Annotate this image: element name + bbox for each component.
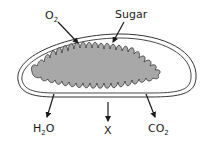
label-x: X	[104, 124, 112, 137]
o2-arrow	[58, 22, 78, 43]
h2o-arrow	[47, 94, 54, 117]
label-h2o: H2O	[33, 122, 55, 137]
label-sugar: Sugar	[115, 8, 148, 21]
mitochondrion-diagram: O2 Sugar H2O X CO2	[0, 0, 208, 147]
cristae-matrix	[31, 42, 160, 88]
label-co2: CO2	[148, 122, 169, 137]
label-o2: O2	[45, 9, 58, 24]
sugar-arrow	[113, 22, 124, 42]
